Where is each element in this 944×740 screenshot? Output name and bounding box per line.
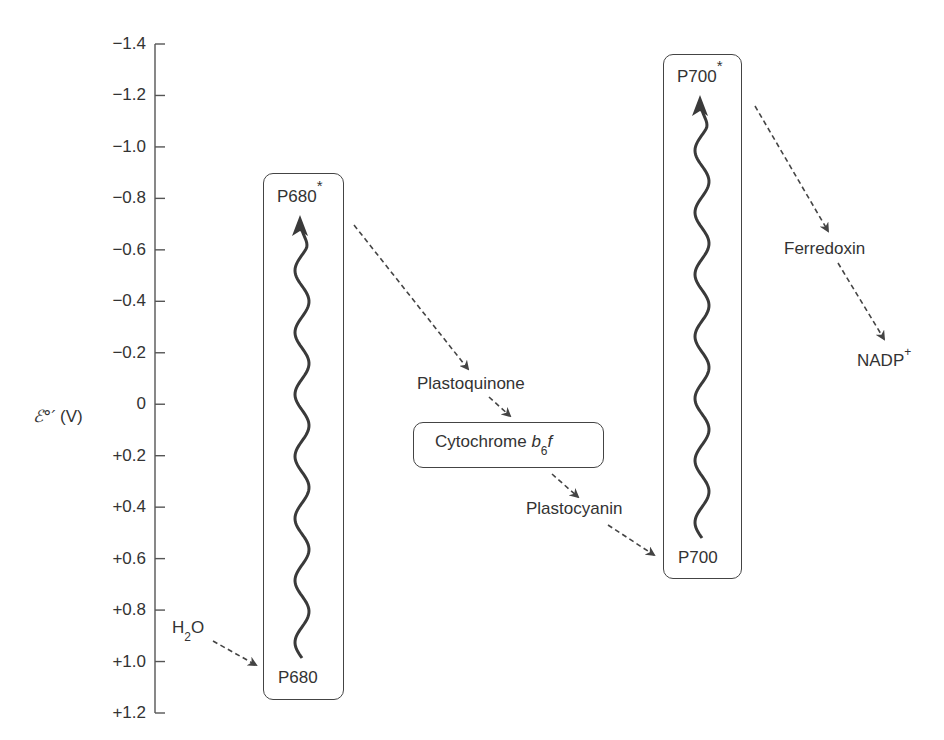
y-axis-tick-label: −0.6 bbox=[56, 240, 146, 260]
y-axis-tick-label: −0.8 bbox=[56, 188, 146, 208]
photosystem-i-box bbox=[663, 54, 742, 579]
arrow-cytochrome-to-plastocyanin bbox=[552, 474, 578, 497]
p680-ground-label: P680 bbox=[278, 668, 318, 688]
y-axis-tick-label: −1.2 bbox=[56, 85, 146, 105]
p680-excited-label: P680* bbox=[277, 187, 323, 207]
arrow-plastoquinone-to-cytochrome bbox=[489, 397, 510, 416]
y-axis-tick-label: +1.2 bbox=[56, 703, 146, 723]
y-axis-tick-label: +0.8 bbox=[56, 600, 146, 620]
arrow-water-to-p680 bbox=[213, 641, 256, 665]
cytochrome-b6f-label: Cytochrome b6f bbox=[435, 432, 552, 452]
diagram-graphics bbox=[0, 0, 944, 740]
y-axis-tick-label: −1.4 bbox=[56, 34, 146, 54]
y-axis-tick-label: −0.4 bbox=[56, 291, 146, 311]
y-axis-tick-label: +0.4 bbox=[56, 497, 146, 517]
y-axis-tick-label: −0.2 bbox=[56, 343, 146, 363]
arrow-plastocyanin-to-p700 bbox=[608, 525, 654, 555]
p700-excited-label: P700* bbox=[677, 67, 723, 87]
y-axis-tick-label: +0.6 bbox=[56, 549, 146, 569]
ferredoxin-label: Ferredoxin bbox=[784, 239, 865, 259]
photosystem-ii-box bbox=[263, 173, 344, 700]
arrow-p700-to-ferredoxin bbox=[755, 106, 828, 231]
y-axis bbox=[155, 44, 165, 713]
y-axis-tick-label: −1.0 bbox=[56, 137, 146, 157]
y-axis-title: ℰ°′ (V) bbox=[33, 406, 83, 427]
arrow-p680-to-plastoquinone bbox=[354, 225, 468, 369]
arrow-ferredoxin-to-nadp bbox=[838, 263, 884, 339]
y-axis-tick-label: +1.0 bbox=[56, 652, 146, 672]
nadp-label: NADP+ bbox=[857, 351, 911, 371]
z-scheme-diagram: −1.4−1.2−1.0−0.8−0.6−0.4−0.20+0.2+0.4+0.… bbox=[0, 0, 944, 740]
plastocyanin-label: Plastocyanin bbox=[526, 499, 622, 519]
plastoquinone-label: Plastoquinone bbox=[417, 374, 525, 394]
water-label: H2O bbox=[172, 618, 204, 638]
p700-ground-label: P700 bbox=[678, 548, 718, 568]
y-axis-tick-label: +0.2 bbox=[56, 446, 146, 466]
